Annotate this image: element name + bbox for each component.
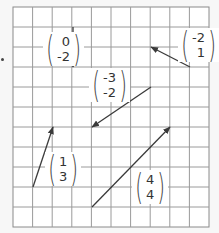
- vector-y: -2: [57, 49, 70, 64]
- vector-x: 1: [59, 154, 67, 169]
- vector-grid-diagram: ( 0-2 ) ( -21 ) ( -3-2 ) ( 13 ) ( 44 ): [0, 0, 219, 233]
- vector-label-0-neg2: ( 0-2 ): [43, 32, 84, 66]
- right-paren: ): [70, 152, 78, 186]
- left-paren: (: [135, 170, 143, 204]
- bullet-dot: [1, 58, 4, 61]
- right-paren: ): [73, 32, 81, 66]
- right-paren: ): [208, 28, 216, 62]
- vector-x: -3: [103, 70, 116, 85]
- vector-x: 0: [62, 34, 70, 49]
- vector-label-1-3: ( 13 ): [45, 152, 81, 186]
- left-paren: (: [48, 152, 56, 186]
- vector-label-neg2-1: ( -21 ): [178, 28, 219, 62]
- left-paren: (: [46, 32, 54, 66]
- vector-y: 4: [146, 187, 154, 202]
- vector-x: 4: [146, 172, 154, 187]
- right-paren: ): [119, 68, 127, 102]
- vector-label-neg3-neg2: ( -3-2 ): [89, 68, 130, 102]
- vector-y: 3: [59, 169, 67, 184]
- right-paren: ): [157, 170, 165, 204]
- left-paren: (: [92, 68, 100, 102]
- vector-y: 1: [197, 45, 205, 60]
- vector-x: -2: [192, 30, 205, 45]
- vector-label-4-4: ( 44 ): [132, 170, 168, 204]
- vector-y: -2: [103, 85, 116, 100]
- left-paren: (: [181, 28, 189, 62]
